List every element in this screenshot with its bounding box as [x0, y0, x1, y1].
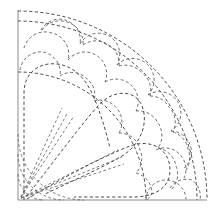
scale-circle: [24, 32, 69, 60]
scale-circle: [94, 100, 122, 133]
scale-circle: [68, 52, 107, 82]
quilting-pattern-figure: [0, 0, 221, 215]
scale-row-inner: [20, 52, 152, 200]
pattern-canvas: [0, 0, 221, 215]
scale-circle: [156, 148, 186, 178]
scale-circle: [83, 41, 119, 66]
corner-concentric-arcs: [18, 134, 84, 200]
spoke-line: [21, 116, 74, 197]
scale-circle: [136, 173, 152, 200]
teardrop-petal: [27, 93, 144, 196]
spoke-line: [21, 150, 118, 198]
scale-circle: [105, 79, 138, 111]
scale-row-outer-tops: [42, 21, 190, 170]
scale-circle: [148, 92, 181, 131]
scale-row-outer: [41, 19, 191, 168]
teardrop-petal: [27, 143, 170, 199]
scale-row-middle: [24, 32, 178, 190]
spoke-line: [21, 157, 122, 198]
teardrop-petal-group: [24, 64, 170, 200]
corner-arc: [18, 134, 84, 200]
radial-spoke-lines: [21, 108, 124, 198]
scale-circle: [136, 111, 162, 148]
scale-circle: [42, 21, 83, 45]
spoke-line: [21, 112, 68, 197]
teardrop-petal: [24, 64, 110, 200]
scale-circle: [150, 96, 175, 132]
scale-circle: [117, 58, 154, 95]
scale-row-lower-right: [146, 148, 200, 200]
scale-circle: [119, 65, 151, 96]
